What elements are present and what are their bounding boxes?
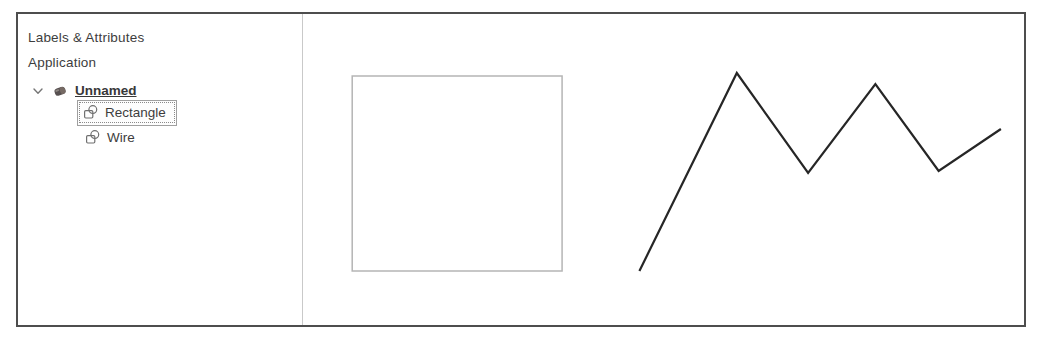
labels-attributes-panel: Labels & Attributes Application [18, 14, 303, 325]
application-object-icon [51, 82, 68, 99]
tree-item-rectangle[interactable]: Rectangle [77, 100, 177, 126]
tree-item-unnamed-label: Unnamed [75, 83, 137, 98]
wire-shape[interactable] [639, 73, 1001, 271]
tree-item-rectangle-selection: Rectangle [79, 102, 175, 123]
rectangle-shape[interactable] [352, 76, 562, 271]
tree-item-rectangle-label: Rectangle [105, 105, 166, 120]
tree-item-wire[interactable]: Wire [84, 129, 296, 146]
object-tree: Unnamed Rectangle [28, 82, 296, 146]
rectangle-shape-icon [82, 104, 99, 121]
panel-title: Labels & Attributes [28, 30, 296, 45]
chevron-down-icon[interactable] [31, 84, 44, 97]
tree-item-wire-label: Wire [107, 130, 135, 145]
tree-item-unnamed[interactable]: Unnamed [28, 82, 296, 99]
app-window: Labels & Attributes Application [16, 12, 1026, 327]
wire-shape-icon [84, 129, 101, 146]
panel-subtitle: Application [28, 55, 296, 70]
canvas-svg [303, 14, 1024, 325]
drawing-canvas[interactable] [303, 14, 1024, 325]
